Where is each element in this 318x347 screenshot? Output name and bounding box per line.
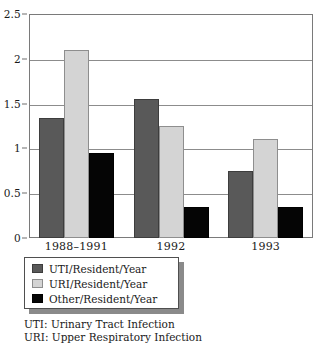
y-axis: 00.511.522.5: [0, 14, 27, 238]
y-tick-label: 2.5: [4, 8, 21, 20]
y-tick-label: 1.5: [4, 98, 21, 110]
x-tick-label: 1992: [157, 240, 186, 253]
y-tick-label: 0.5: [4, 187, 21, 199]
x-tick-label: 1988–1991: [45, 240, 108, 253]
bar: [39, 118, 64, 238]
legend-swatch-other-icon: [32, 294, 43, 303]
bar: [64, 50, 89, 238]
chart-legend: UTI/Resident/Year URI/Resident/Year Othe…: [24, 257, 179, 309]
bar: [134, 99, 159, 238]
bar: [159, 126, 184, 238]
y-tick-mark: [22, 14, 27, 15]
legend-item[interactable]: URI/Resident/Year: [32, 276, 172, 291]
bar: [89, 153, 114, 238]
bar: [228, 171, 253, 238]
footnote-uti: UTI: Urinary Tract Infection: [24, 318, 304, 331]
legend-label: UTI/Resident/Year: [49, 263, 146, 275]
legend-swatch-uti-icon: [32, 264, 43, 273]
legend-label: URI/Resident/Year: [49, 278, 147, 290]
bar: [184, 207, 209, 238]
bar: [253, 139, 278, 238]
plot-area: [29, 14, 313, 238]
footnote-uri: URI: Upper Respiratory Infection: [24, 331, 304, 344]
y-tick-mark: [22, 148, 27, 149]
bar-chart-figure: 00.511.522.5 1988–199119921993 UTI/Resid…: [0, 0, 318, 347]
y-tick-mark: [22, 58, 27, 59]
y-tick-mark: [22, 193, 27, 194]
footnotes: UTI: Urinary Tract Infection URI: Upper …: [24, 318, 304, 344]
x-axis: 1988–199119921993: [29, 240, 313, 256]
y-tick-mark: [22, 103, 27, 104]
legend-swatch-uri-icon: [32, 279, 43, 288]
y-tick-label: 0: [14, 232, 21, 244]
legend-item[interactable]: Other/Resident/Year: [32, 291, 172, 306]
y-tick-label: 1: [14, 142, 21, 154]
x-tick-label: 1993: [251, 240, 280, 253]
bar: [278, 207, 303, 238]
legend-label: Other/Resident/Year: [49, 293, 157, 305]
bars-layer: [29, 14, 313, 238]
legend-item[interactable]: UTI/Resident/Year: [32, 261, 172, 276]
y-tick-label: 2: [14, 53, 21, 65]
y-tick-mark: [22, 238, 27, 239]
